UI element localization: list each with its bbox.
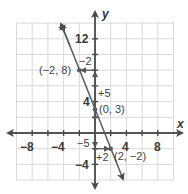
x-axis-label: x	[176, 117, 185, 131]
y-tick-label: 12	[75, 32, 89, 46]
run-annotation: +2	[96, 151, 109, 163]
x-tick-label: −8	[20, 140, 34, 154]
run-annotation: −2	[79, 55, 92, 67]
point-label: (2, −2)	[114, 150, 146, 162]
y-axis-label: y	[101, 7, 110, 21]
rise-annotation: +5	[98, 87, 111, 99]
x-tick-label: 8	[154, 140, 161, 154]
coordinate-plane: y x −8 −4 4 8 12 4 −4 (−2, 8) (0, 3) (2,…	[0, 0, 188, 194]
y-tick-label: 4	[83, 95, 90, 109]
point-label: (0, 3)	[99, 103, 125, 115]
fall-annotation: −5	[77, 137, 90, 149]
x-tick-label: −4	[51, 140, 65, 154]
point-2-neg2	[108, 146, 113, 151]
point-neg2-8	[77, 68, 82, 73]
point-label: (−2, 8)	[39, 64, 71, 76]
y-tick-label: −4	[75, 158, 89, 172]
point-0-3	[93, 107, 98, 112]
